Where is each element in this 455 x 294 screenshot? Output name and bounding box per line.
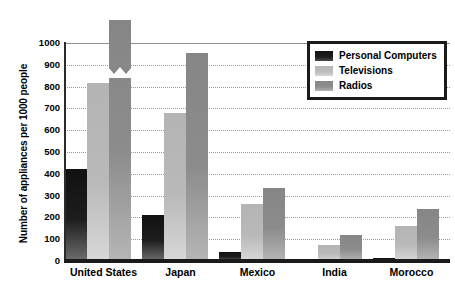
y-tick-label-0: 0 [20,256,60,266]
bar-japan-personal-computers [142,215,164,261]
legend-item-pc: Personal Computers [315,48,439,63]
legend-item-radio: Radios [315,78,439,93]
bar-india-radios [340,235,362,261]
chart-legend: Personal ComputersTelevisionsRadios [307,41,447,100]
y-tick-label-1000: 1000 [20,38,60,48]
y-tick-label-900: 900 [20,60,60,70]
bar-mexico-televisions [241,204,263,261]
legend-swatch-radio [315,81,333,91]
bar-chart: Number of appliances per 1000 people 100… [0,0,455,294]
legend-swatch-pc [315,51,333,61]
y-tick-label-200: 200 [20,212,60,222]
bar-united-states-radios [109,20,131,261]
bar-united-states-personal-computers [65,169,87,261]
bar-united-states-televisions [87,83,109,261]
y-axis-spine [64,42,66,262]
y-tick-label-300: 300 [20,191,60,201]
legend-label-pc: Personal Computers [339,51,437,61]
bar-morocco-televisions [395,226,417,261]
y-tick-label-400: 400 [20,169,60,179]
legend-item-tv: Televisions [315,63,439,78]
y-tick-label-700: 700 [20,103,60,113]
legend-label-radio: Radios [339,81,372,91]
y-tick-label-500: 500 [20,147,60,157]
legend-swatch-tv [315,66,333,76]
legend-label-tv: Televisions [339,66,393,76]
axis-break-zigzag [108,67,132,78]
y-tick-label-800: 800 [20,82,60,92]
bar-japan-radios [186,53,208,261]
y-tick-label-100: 100 [20,234,60,244]
y-tick-label-600: 600 [20,125,60,135]
y-axis-tick-labels: 10009008007006005004003002001000 [16,0,60,294]
bar-morocco-radios [417,209,439,261]
x-label-morocco: Morocco [359,266,455,278]
x-axis-baseline [64,259,450,263]
bar-mexico-radios [263,188,285,261]
bar-japan-televisions [164,113,186,261]
